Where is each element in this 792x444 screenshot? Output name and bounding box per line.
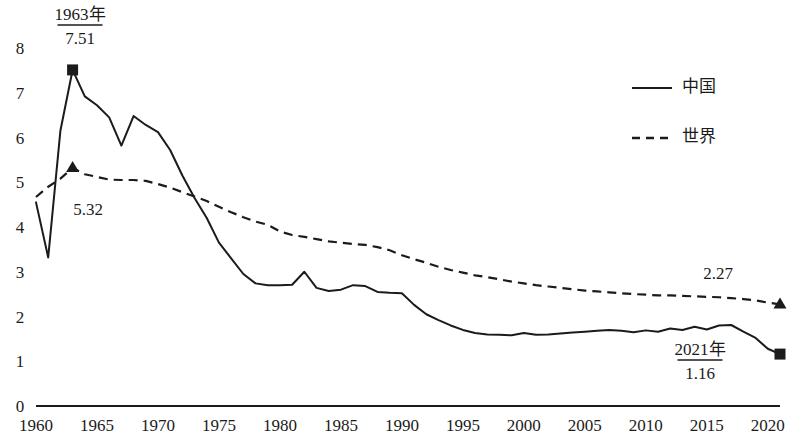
- x-axis-tick-1990: 1990: [385, 416, 419, 435]
- x-axis-tick-1985: 1985: [324, 416, 358, 435]
- y-axis-tick-0: 0: [16, 397, 25, 416]
- x-axis-tick-2010: 2010: [629, 416, 663, 435]
- fertility-rate-chart: 012345678 196019651970197519801985199019…: [0, 0, 792, 444]
- series-line-china: [36, 70, 780, 354]
- x-axis-tick-2015: 2015: [690, 416, 724, 435]
- x-axis-tick-1975: 1975: [202, 416, 236, 435]
- y-axis-tick-4: 4: [16, 218, 25, 237]
- annotation-title-china-peak: 1963年: [55, 5, 106, 24]
- y-axis-tick-7: 7: [16, 84, 25, 103]
- y-axis-tick-6: 6: [16, 129, 25, 148]
- y-axis-tick-3: 3: [16, 263, 25, 282]
- x-axis-tick-2000: 2000: [507, 416, 541, 435]
- x-axis-tick-1965: 1965: [80, 416, 114, 435]
- series-group: [36, 70, 780, 354]
- x-axis-tick-1970: 1970: [141, 416, 175, 435]
- y-axis-tick-labels: 012345678: [16, 39, 25, 416]
- annotation-value-world-peak: 5.32: [73, 200, 103, 219]
- chart-canvas: 012345678 196019651970197519801985199019…: [0, 0, 792, 444]
- x-axis-tick-2005: 2005: [568, 416, 602, 435]
- x-axis-tick-1980: 1980: [263, 416, 297, 435]
- legend-label-china: 中国: [682, 77, 716, 96]
- x-axis-tick-labels: 1960196519701975198019851990199520002005…: [19, 416, 785, 435]
- marker-square-china-last: [775, 349, 786, 360]
- x-axis-tick-2020: 2020: [751, 416, 785, 435]
- chart-legend: 中国世界: [632, 77, 716, 146]
- annotation-value-china-last: 1.16: [685, 364, 715, 383]
- marker-square-china-peak: [67, 64, 78, 75]
- legend-label-world: 世界: [682, 127, 716, 146]
- marker-triangle-world-peak: [66, 161, 79, 172]
- annotation-value-china-peak: 7.51: [65, 29, 95, 48]
- annotation-value-world-last: 2.27: [703, 264, 733, 283]
- series-line-world: [36, 168, 780, 304]
- x-axis-tick-1995: 1995: [446, 416, 480, 435]
- y-axis-tick-8: 8: [16, 39, 25, 58]
- annotation-group: 1963年7.515.322021年1.162.27: [55, 5, 734, 383]
- y-axis-tick-2: 2: [16, 308, 25, 327]
- y-axis-tick-1: 1: [16, 352, 25, 371]
- y-axis-tick-5: 5: [16, 173, 25, 192]
- x-axis-tick-1960: 1960: [19, 416, 53, 435]
- annotation-title-china-last: 2021年: [675, 340, 726, 359]
